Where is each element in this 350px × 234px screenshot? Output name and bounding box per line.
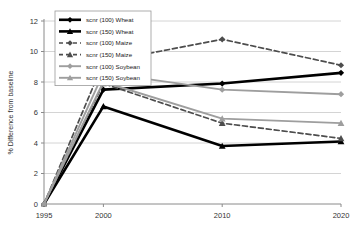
legend-item-label: scnr (100) Maize	[86, 39, 133, 46]
y-tick-label: 12	[30, 17, 38, 26]
x-tick-label: 2010	[214, 211, 231, 220]
y-tick-label: 6	[34, 108, 38, 117]
legend-item-label: scnr (150) Wheat	[86, 28, 134, 35]
data-point-marker-diamond	[338, 62, 344, 68]
legend-item-label: scnr (150) Soybean	[86, 74, 141, 81]
data-point-marker-diamond	[219, 80, 225, 86]
y-axis-title: % Difference from baseline	[7, 70, 14, 154]
line-chart: 024681012 1995200020102020 % Difference …	[0, 0, 350, 234]
series-4	[41, 70, 344, 207]
legend-item-1[interactable]: scnr (150) Wheat	[59, 28, 134, 35]
y-tick-label: 4	[34, 139, 38, 148]
legend-item-label: scnr (100) Soybean	[86, 63, 141, 70]
legend-item-3[interactable]: scnr (150) Maize	[59, 51, 133, 58]
x-tick-label: 2020	[333, 211, 350, 220]
y-axis-ticks: 024681012	[30, 17, 44, 209]
chart-legend: scnr (100) Wheatscnr (150) Wheatscnr (10…	[55, 11, 151, 86]
data-point-marker-diamond	[338, 70, 344, 76]
data-point-marker-diamond	[219, 36, 225, 42]
x-axis-ticks: 1995200020102020	[36, 204, 350, 220]
y-tick-label: 2	[34, 169, 38, 178]
series-0	[41, 70, 344, 207]
series-line	[44, 73, 341, 204]
x-tick-label: 1995	[36, 211, 53, 220]
data-point-marker-diamond	[219, 87, 225, 93]
y-tick-label: 0	[34, 200, 38, 209]
chart-container: 024681012 1995200020102020 % Difference …	[0, 0, 350, 234]
legend-item-label: scnr (100) Wheat	[86, 16, 134, 23]
legend-item-label: scnr (150) Maize	[86, 51, 133, 58]
legend-item-2[interactable]: scnr (100) Maize	[59, 39, 133, 46]
y-axis-title-text: % Difference from baseline	[7, 70, 14, 154]
y-tick-label: 8	[34, 78, 38, 87]
x-tick-label: 2000	[95, 211, 112, 220]
y-tick-label: 10	[30, 47, 38, 56]
data-point-marker-diamond	[338, 91, 344, 97]
